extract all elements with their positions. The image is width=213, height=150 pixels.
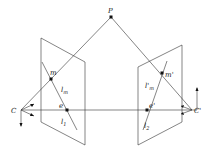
label-l-m: lm: [61, 86, 68, 95]
label-c: C: [11, 107, 17, 115]
camera-axes-c: [20, 104, 35, 127]
right-image-plane: [138, 45, 182, 145]
point-m-prime: [161, 72, 164, 75]
label-m: m: [50, 69, 57, 77]
epipolar-line-lm: [42, 62, 77, 130]
label-e-prime: e': [149, 102, 155, 110]
label-l2: l2: [144, 122, 149, 131]
ray-p-to-c: [21, 17, 111, 110]
point-m: [50, 78, 53, 81]
epipolar-line-lm-prime: [143, 61, 167, 130]
label-c-prime: C': [194, 107, 201, 115]
label-e: e: [59, 102, 63, 110]
ray-p-to-c-prime: [111, 17, 192, 110]
point-e: [66, 109, 69, 112]
label-m-prime: m': [165, 71, 174, 79]
label-p: P: [107, 7, 113, 15]
label-l-m-prime: l'm: [145, 82, 154, 91]
point-p: [110, 16, 113, 19]
label-l1: l1: [61, 118, 66, 127]
epipolar-geometry-diagram: P C C' m m' e e' lm l'm l1 l2: [0, 0, 213, 150]
